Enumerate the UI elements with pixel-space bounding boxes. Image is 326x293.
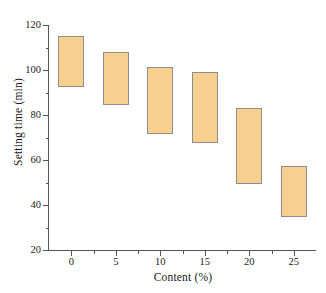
bar [103,52,129,105]
y-axis-title: Setting time (min) [12,42,24,202]
chart-container: Setting time (min) Content (%) 204060801… [0,0,326,293]
x-axis-tick-label: 20 [244,257,255,268]
y-axis-minor-tick [46,138,50,139]
bar [281,166,307,218]
y-axis-tick [43,160,49,161]
y-axis-minor-tick [46,48,50,49]
y-axis-minor-tick [46,183,50,184]
x-axis-minor-tick [183,250,184,254]
x-axis-minor-tick [138,250,139,254]
y-axis-minor-tick [46,93,50,94]
y-axis-tick-label: 80 [31,110,42,121]
y-axis-tick-label: 60 [31,155,42,166]
x-axis-title: Content (%) [48,271,318,283]
y-axis-tick-label: 20 [31,245,42,256]
y-axis-tick [43,250,49,251]
x-axis-tick-label: 0 [69,257,74,268]
y-axis-tick-label: 100 [25,65,41,76]
bar [58,36,84,87]
plot-area: 20406080100120 0510152025 [48,25,316,251]
bar [192,72,218,143]
y-axis-tick [43,25,49,26]
y-axis-minor-tick [46,228,50,229]
bar [147,67,173,135]
y-axis-tick [43,70,49,71]
x-axis-minor-tick [272,250,273,254]
x-axis-tick-label: 5 [113,257,118,268]
x-axis-tick-label: 25 [289,257,300,268]
y-axis-tick-label: 120 [25,20,41,31]
x-axis-tick-label: 15 [200,257,211,268]
x-axis-minor-tick [227,250,228,254]
x-axis-minor-tick [94,250,95,254]
y-axis-tick [43,205,49,206]
y-axis-tick-label: 40 [31,200,42,211]
bar [236,108,262,183]
x-axis-tick-label: 10 [155,257,166,268]
y-axis-tick [43,115,49,116]
